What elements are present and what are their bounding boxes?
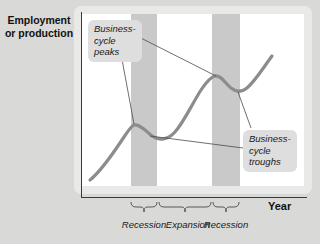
bracket-expansion — [159, 202, 211, 212]
callout-business-cycle-peaks: Business- cycle peaks — [88, 20, 142, 62]
figure-canvas: Employment or production Year Business- … — [0, 0, 320, 244]
phase-label-recession-2: Recession — [190, 219, 262, 230]
callout-business-cycle-troughs: Business- cycle troughs — [243, 130, 297, 172]
leader-line-peak-2 — [131, 33, 216, 76]
leader-line-trough-2 — [238, 92, 251, 128]
bracket-recession-1 — [131, 202, 157, 212]
leader-line-trough-1 — [150, 136, 243, 148]
y-axis-title: Employment or production — [2, 14, 76, 39]
bracket-recession-2 — [213, 202, 239, 212]
x-axis-title: Year — [268, 200, 291, 212]
leader-line-peak-1 — [121, 54, 134, 124]
